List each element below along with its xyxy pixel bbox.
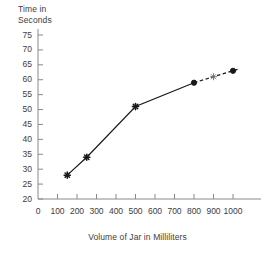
data-point-marker: [132, 103, 138, 109]
plot-area: [0, 0, 275, 258]
data-point-marker: [64, 172, 70, 178]
data-point-marker: [210, 74, 216, 80]
data-point-dot: [230, 68, 235, 73]
x-axis-title: Volume of Jar in Milliliters: [0, 232, 275, 242]
data-line-solid: [67, 83, 194, 175]
data-point-core: [134, 105, 137, 108]
chart-container: Time inSeconds 202530354045505560657075 …: [0, 0, 275, 258]
data-point-marker: [191, 80, 196, 85]
data-point-dot: [191, 80, 196, 85]
data-point-core: [66, 174, 69, 177]
data-point-marker: [230, 68, 235, 73]
data-point-core: [85, 156, 88, 159]
data-point-marker: [84, 154, 90, 160]
